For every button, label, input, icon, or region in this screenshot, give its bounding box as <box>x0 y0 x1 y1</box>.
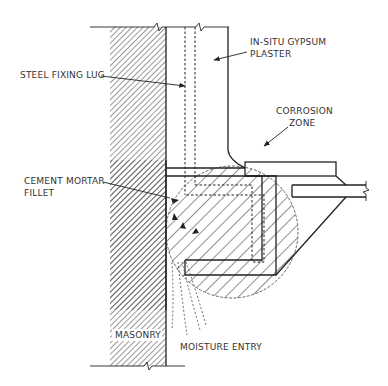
label-steel-fixing-lug: STEEL FIXING LUG <box>20 70 105 80</box>
label-gypsum-plaster-line1: IN-SITU GYPSUM <box>250 37 326 47</box>
label-moisture-entry: MOISTURE ENTRY <box>180 342 262 352</box>
label-cement-mortar-fillet-line1: CEMENT MORTAR <box>24 176 105 186</box>
construction-detail-diagram: STEEL FIXING LUG IN-SITU GYPSUM PLASTER … <box>0 0 388 386</box>
label-corrosion-zone-line2: ZONE <box>289 118 316 128</box>
gypsum-plaster <box>228 27 245 168</box>
label-cement-mortar-fillet-line2: FILLET <box>24 188 55 198</box>
label-gypsum-plaster-line2: PLASTER <box>250 49 291 59</box>
label-corrosion-zone-line1: CORROSION <box>276 106 333 116</box>
shelf <box>292 181 369 201</box>
label-masonry: MASONRY <box>115 330 161 340</box>
